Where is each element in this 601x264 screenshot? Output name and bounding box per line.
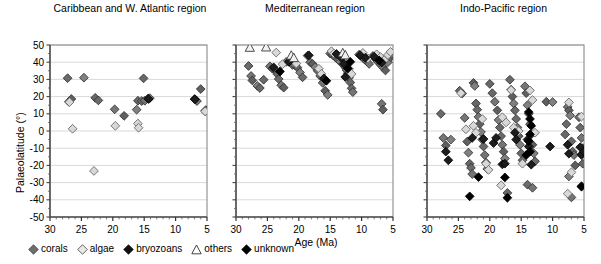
data-point-corals	[139, 74, 148, 83]
x-tick-label: 25	[76, 224, 88, 235]
y-tick-label: 50	[33, 40, 45, 51]
x-tick-label: 25	[262, 224, 274, 235]
data-point-bryozoans	[444, 156, 453, 165]
legend-item-bryozoans: bryozoans	[123, 243, 182, 255]
data-point-corals	[512, 115, 521, 124]
x-tick-label: 20	[484, 224, 496, 235]
x-tick-label: 10	[170, 224, 182, 235]
data-point-algae	[507, 86, 516, 95]
data-point-corals	[436, 109, 445, 118]
data-point-others	[245, 43, 254, 52]
x-tick-label: 5	[204, 224, 210, 235]
diamond-icon	[28, 244, 39, 255]
scatter-plots-canvas: 50403020100-10-20-30-40-5030252015105302…	[0, 0, 601, 264]
data-point-algae	[272, 48, 281, 57]
data-point-corals	[509, 99, 518, 108]
data-point-algae	[201, 107, 210, 116]
data-point-corals	[196, 85, 205, 94]
data-point-algae	[68, 124, 77, 133]
x-tick-label: 15	[325, 224, 337, 235]
data-point-corals	[578, 159, 587, 168]
data-point-corals	[80, 73, 89, 82]
legend-label-others: others	[204, 243, 232, 255]
data-point-corals	[485, 79, 494, 88]
legend-item-corals: corals	[28, 243, 68, 255]
data-point-corals	[110, 105, 119, 114]
data-point-unknown	[500, 173, 509, 182]
diamond-black-icon	[241, 244, 252, 255]
data-point-algae	[111, 121, 120, 130]
data-point-corals	[577, 133, 586, 142]
data-point-bryozoans	[546, 142, 555, 151]
y-tick-label: -20	[30, 160, 45, 171]
x-tick-label: 25	[453, 224, 465, 235]
x-tick-label: 5	[390, 224, 396, 235]
data-point-corals	[562, 120, 571, 129]
x-tick-label: 20	[107, 224, 119, 235]
data-point-corals	[132, 105, 141, 114]
diamond-open-icon	[77, 244, 88, 255]
data-point-corals	[460, 114, 469, 123]
data-point-corals	[63, 74, 72, 83]
y-tick-label: -30	[30, 177, 45, 188]
y-tick-label: 30	[33, 74, 45, 85]
legend-item-unknown: unknown	[241, 243, 294, 255]
points-layer	[63, 73, 210, 175]
data-point-corals	[505, 75, 514, 84]
x-tick-label: 20	[293, 224, 305, 235]
x-tick-label: 15	[516, 224, 528, 235]
y-tick-label: -40	[30, 194, 45, 205]
legend-label-unknown: unknown	[254, 243, 294, 255]
data-point-algae	[90, 167, 99, 176]
x-tick-label: 30	[230, 224, 242, 235]
y-tick-label: -50	[30, 212, 45, 223]
triangle-icon	[191, 244, 202, 255]
data-point-corals	[259, 75, 268, 84]
data-point-corals	[464, 148, 473, 157]
data-point-others	[262, 42, 271, 51]
points-layer	[244, 42, 396, 114]
y-tick-label: 20	[33, 91, 45, 102]
data-point-unknown	[577, 182, 586, 191]
x-tick-label: 30	[421, 224, 433, 235]
y-tick-label: -10	[30, 143, 45, 154]
x-tick-label: 15	[139, 224, 151, 235]
legend: corals algae bryozoans others unknown	[28, 243, 298, 255]
points-layer	[436, 75, 588, 202]
figure-root: Caribbean and W. Atlantic region Mediter…	[0, 0, 601, 264]
y-tick-label: 40	[33, 57, 45, 68]
data-point-corals	[439, 133, 448, 142]
legend-label-corals: corals	[41, 243, 68, 255]
data-point-corals	[548, 98, 557, 107]
legend-item-algae: algae	[77, 243, 114, 255]
legend-item-others: others	[191, 243, 232, 255]
y-tick-label: 0	[38, 126, 44, 137]
x-tick-label: 5	[581, 224, 587, 235]
legend-label-algae: algae	[90, 243, 114, 255]
data-point-corals	[490, 97, 499, 106]
diamond-filled-icon	[123, 244, 134, 255]
y-tick-label: 10	[33, 108, 45, 119]
x-tick-label: 10	[547, 224, 559, 235]
data-point-corals	[480, 151, 489, 160]
data-point-corals	[120, 111, 129, 120]
x-tick-label: 30	[44, 224, 56, 235]
x-tick-label: 10	[356, 224, 368, 235]
legend-label-bryozoans: bryozoans	[136, 243, 182, 255]
data-point-corals	[244, 62, 253, 71]
